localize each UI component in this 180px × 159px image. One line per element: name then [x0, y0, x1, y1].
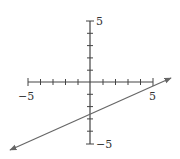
x-max-label: 5	[149, 90, 156, 103]
x-min-label: −5	[18, 90, 34, 103]
y-min-label: −5	[96, 138, 112, 151]
coordinate-plane: −5 5 5 −5	[0, 0, 180, 159]
y-max-label: 5	[96, 15, 103, 28]
